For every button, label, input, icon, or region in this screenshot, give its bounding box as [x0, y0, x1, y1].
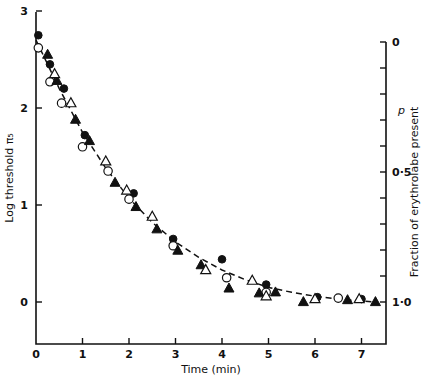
- open-circle-marker: [34, 44, 42, 52]
- right-tick-label: 1·0: [392, 296, 412, 309]
- chart-figure: 01234567012300·51·0 Time (min) Log thres…: [0, 0, 431, 381]
- filled-circle-marker: [81, 131, 89, 139]
- filled-triangle-marker: [298, 297, 308, 306]
- right-axis-title: Fraction of erythrolabe present: [408, 106, 421, 277]
- x-axis-title: Time (min): [180, 363, 241, 376]
- y-axis-title: Log threshold π₅: [3, 133, 16, 222]
- y-tick-label: 1: [20, 199, 28, 212]
- filled-triangle-marker: [370, 297, 380, 306]
- plot-frame: [36, 12, 386, 344]
- filled-circle-marker: [218, 256, 226, 264]
- open-circle-marker: [222, 274, 230, 282]
- y-tick-label: 3: [20, 5, 28, 18]
- filled-triangle-marker: [131, 202, 141, 211]
- right-tick-label: 0: [392, 36, 400, 49]
- filled-triangle-marker: [71, 114, 81, 123]
- fit-curve: [36, 40, 375, 302]
- x-tick-label: 7: [358, 348, 366, 361]
- filled-triangle-marker: [152, 224, 162, 233]
- x-tick-label: 2: [125, 348, 133, 361]
- x-tick-label: 3: [172, 348, 180, 361]
- filled-circle-marker: [46, 61, 54, 69]
- x-tick-label: 5: [265, 348, 273, 361]
- x-tick-label: 1: [79, 348, 87, 361]
- filled-triangle-marker: [224, 283, 234, 292]
- filled-triangle-marker: [43, 49, 53, 58]
- open-triangle-marker: [147, 211, 157, 220]
- data-points: [34, 31, 380, 305]
- open-triangle-marker: [101, 156, 111, 165]
- x-tick-label: 6: [311, 348, 319, 361]
- axis-lines: [36, 12, 386, 344]
- open-circle-marker: [125, 195, 133, 203]
- x-tick-label: 4: [218, 348, 226, 361]
- y-tick-label: 2: [20, 102, 28, 115]
- open-triangle-marker: [66, 98, 76, 107]
- x-tick-label: 0: [32, 348, 40, 361]
- open-circle-marker: [104, 167, 112, 175]
- filled-circle-marker: [35, 31, 43, 39]
- filled-triangle-marker: [343, 295, 353, 304]
- filled-circle-marker: [60, 85, 68, 93]
- open-triangle-marker: [247, 275, 257, 284]
- dashed-fit-line: [36, 40, 375, 302]
- y-tick-label: 0: [20, 296, 28, 309]
- filled-circle-marker: [262, 281, 270, 289]
- right-axis-symbol-p: p: [397, 104, 405, 117]
- open-circle-marker: [57, 99, 65, 107]
- filled-triangle-marker: [110, 177, 120, 186]
- open-circle-marker: [334, 294, 342, 302]
- axis-ticks: 01234567012300·51·0: [20, 5, 411, 361]
